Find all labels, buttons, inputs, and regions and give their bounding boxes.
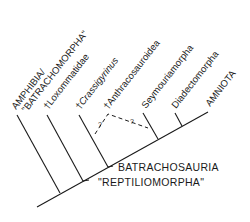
node-label-batrachosauria: BATRACHOSAURIA: [118, 161, 219, 173]
branch-crassigyrinus: [79, 115, 108, 167]
question-mark-right: ?: [130, 118, 134, 125]
taxon-label-amniota: AMNIOTA: [203, 67, 238, 108]
dashed-branch-anthracosauroidea: [95, 114, 148, 134]
pointer-batrachosauria: [108, 166, 113, 167]
pointer-reptiliomorpha: [83, 180, 89, 181]
question-mark-left: ?: [98, 121, 102, 128]
branch-loxommatidae: [47, 115, 83, 181]
node-label-reptiliomorpha: "REPTILIOMORPHA": [98, 176, 204, 188]
main-stem: [37, 112, 208, 207]
branch-diadectomorpha: [175, 113, 182, 126]
cladogram: ? ? AMPHIBIA/ "BATRACHOMORPHA" †Loxommat…: [0, 0, 250, 222]
branch-seymouriamorpha: [143, 113, 158, 139]
